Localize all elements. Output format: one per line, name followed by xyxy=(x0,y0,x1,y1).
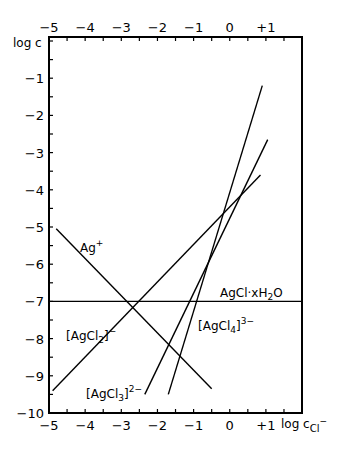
y-tick-label: −4 xyxy=(25,183,44,198)
series-label: Ag+ xyxy=(80,238,103,255)
top-x-tick-label: −5 xyxy=(39,20,58,35)
top-x-tick-label: 0 xyxy=(226,20,234,35)
plot-border xyxy=(49,37,302,413)
y-tick-label: −6 xyxy=(25,257,44,272)
series-labels: Ag+AgCl·xH2O[AgCl2]−[AgCl3]2−[AgCl4]3− xyxy=(66,238,283,403)
x-axis-label: log cCl− xyxy=(281,416,327,434)
axis-ticks: −5−5−4−4−3−3−2−2−1−100+1+1−1−2−3−4−5−6−7… xyxy=(17,20,302,433)
series-label: [AgCl2]− xyxy=(66,326,116,345)
series-line xyxy=(53,175,261,391)
x-axis-label-sub: Cl xyxy=(310,423,320,434)
y-tick-label: −9 xyxy=(25,369,44,384)
y-tick-label: −5 xyxy=(25,220,44,235)
x-tick-label: −2 xyxy=(148,418,167,433)
series-line xyxy=(145,140,268,395)
plot-frame xyxy=(49,37,302,413)
y-axis-label: log c xyxy=(13,36,42,50)
top-x-tick-label: +1 xyxy=(256,20,275,35)
x-tick-label: 0 xyxy=(226,418,234,433)
y-tick-label: −3 xyxy=(25,146,44,161)
x-tick-label: −1 xyxy=(184,418,203,433)
y-tick-label: −1 xyxy=(25,71,44,86)
x-tick-label: −3 xyxy=(112,418,131,433)
series-label: [AgCl3]2− xyxy=(86,384,142,403)
top-x-tick-label: −1 xyxy=(184,20,203,35)
y-tick-label: −2 xyxy=(25,108,44,123)
top-x-tick-label: −4 xyxy=(76,20,95,35)
top-x-tick-label: −3 xyxy=(112,20,131,35)
series-label: AgCl·xH2O xyxy=(220,286,283,302)
x-axis-label-sup: − xyxy=(319,416,327,426)
y-tick-label: −8 xyxy=(25,332,44,347)
y-tick-label: −7 xyxy=(25,294,44,309)
top-x-tick-label: −2 xyxy=(148,20,167,35)
y-tick-label: −10 xyxy=(17,406,44,421)
x-tick-label: +1 xyxy=(256,418,275,433)
series-label: [AgCl4]3− xyxy=(198,316,254,335)
chart: −5−5−4−4−3−3−2−2−1−100+1+1−1−2−3−4−5−6−7… xyxy=(0,0,339,453)
x-axis-label-main: log c xyxy=(281,417,310,431)
series-line xyxy=(168,86,262,395)
x-tick-label: −4 xyxy=(76,418,95,433)
